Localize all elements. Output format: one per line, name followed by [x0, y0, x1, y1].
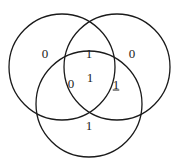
region-label-right-bottom: 1 [113, 78, 120, 91]
region-label-left-bottom: 0 [68, 77, 75, 90]
left-circle [9, 14, 115, 120]
region-label-bottom-only: 1 [86, 119, 93, 132]
bottom-circle [36, 51, 142, 157]
region-label-left-only: 0 [42, 47, 49, 60]
region-label-right-only: 0 [129, 47, 136, 60]
region-label-left-right: 1 [86, 47, 93, 60]
region-label-center-all-three: 1 [87, 71, 94, 84]
venn-diagram: 0 0 1 0 1 1 1 [0, 0, 178, 165]
right-circle [64, 14, 170, 120]
